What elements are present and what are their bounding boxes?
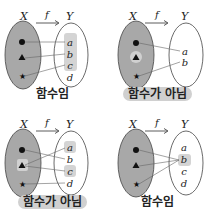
caption: 함수가 아님: [0, 194, 105, 210]
svg-text:c: c: [67, 166, 73, 177]
svg-text:f: f: [154, 117, 161, 128]
svg-text:★: ★: [19, 180, 26, 189]
star-element: ★: [19, 72, 26, 81]
panel-function-2: X f Y ★ a b c d 함수임: [105, 108, 210, 216]
svg-text:Y: Y: [181, 118, 190, 131]
panel-function-1: X f Y ★ a b c d 함수임: [0, 0, 105, 108]
panel-not-function-1: X f Y ★ a b 함수가 아님: [105, 0, 210, 108]
svg-text:b: b: [181, 154, 187, 165]
svg-text:★: ★: [133, 72, 140, 81]
map-label: f: [44, 9, 51, 20]
svg-text:Y: Y: [66, 118, 75, 131]
svg-text:★: ★: [133, 180, 140, 189]
caption: 함수임: [0, 86, 105, 102]
circle-element: [19, 39, 25, 45]
svg-text:a: a: [182, 46, 188, 57]
svg-text:c: c: [67, 60, 73, 71]
set-y-label: Y: [66, 10, 75, 23]
caption: 함수임: [105, 194, 210, 210]
svg-text:b: b: [67, 154, 73, 165]
svg-text:a: a: [67, 37, 73, 48]
svg-text:Y: Y: [181, 10, 190, 23]
svg-text:f: f: [44, 117, 51, 128]
svg-text:f: f: [154, 9, 161, 20]
svg-text:c: c: [181, 166, 187, 177]
svg-text:a: a: [67, 142, 73, 153]
caption: 함수가 아님: [105, 86, 210, 102]
panel-not-function-2: X f Y ★ a b c d 함수가 아님: [0, 108, 105, 216]
svg-text:d: d: [67, 72, 73, 83]
svg-text:a: a: [181, 142, 187, 153]
svg-text:d: d: [67, 178, 73, 189]
svg-text:d: d: [181, 178, 187, 189]
svg-text:b: b: [67, 49, 73, 60]
svg-text:b: b: [182, 57, 188, 68]
